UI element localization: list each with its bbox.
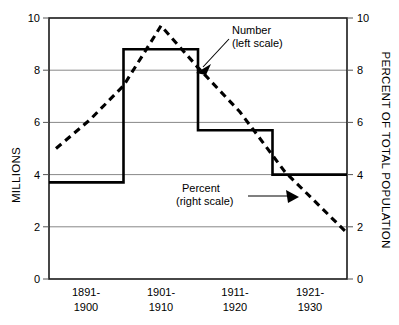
x-label-1-line1: 1901- [147, 286, 175, 298]
right-tick-2: 2 [357, 221, 363, 233]
left-tick-8: 8 [34, 64, 40, 76]
percent-annotation-arrow-head [286, 190, 299, 203]
right-tick-0: 0 [357, 273, 363, 285]
x-label-1-line2: 1910 [149, 301, 173, 313]
right-tick-6: 6 [357, 116, 363, 128]
left-axis-tick-labels: 10 8 6 4 2 0 [28, 12, 40, 285]
left-tick-6: 6 [34, 116, 40, 128]
left-tick-2: 2 [34, 221, 40, 233]
right-tick-10: 10 [357, 12, 369, 24]
x-label-3-line2: 1930 [298, 301, 322, 313]
right-axis-tick-labels: 10 8 6 4 2 0 [357, 12, 369, 285]
right-axis-ticks [347, 18, 353, 279]
chart-plot: 10 8 6 4 2 0 10 8 6 4 2 0 MILLIONS PERCE… [0, 0, 399, 325]
number-annotation-line2: (left scale) [232, 37, 283, 49]
left-tick-0: 0 [34, 273, 40, 285]
number-annotation: Number (left scale) [196, 24, 283, 75]
left-axis-title: MILLIONS [10, 147, 22, 203]
x-label-0-line1: 1891- [72, 286, 100, 298]
percent-annotation-line2: (right scale) [176, 195, 233, 207]
left-tick-10: 10 [28, 12, 40, 24]
left-axis-ticks [43, 18, 49, 279]
x-label-2-line1: 1911- [221, 286, 249, 298]
left-tick-4: 4 [34, 169, 40, 181]
percent-annotation-line1: Percent [182, 182, 220, 194]
right-tick-4: 4 [357, 169, 363, 181]
right-axis-title: PERCENT OF TOTAL POPULATION [380, 51, 392, 248]
number-annotation-line1: Number [232, 24, 271, 36]
number-annotation-arrow-line [203, 39, 229, 67]
x-label-3-line1: 1921- [296, 286, 324, 298]
x-label-0-line2: 1900 [74, 301, 98, 313]
right-tick-8: 8 [357, 64, 363, 76]
x-axis-category-labels: 1891- 1900 1901- 1910 1911- 1920 1921- 1… [72, 286, 324, 313]
x-label-2-line2: 1920 [223, 301, 247, 313]
chart-container: 10 8 6 4 2 0 10 8 6 4 2 0 MILLIONS PERCE… [0, 0, 399, 325]
percent-annotation: Percent (right scale) [176, 182, 299, 207]
